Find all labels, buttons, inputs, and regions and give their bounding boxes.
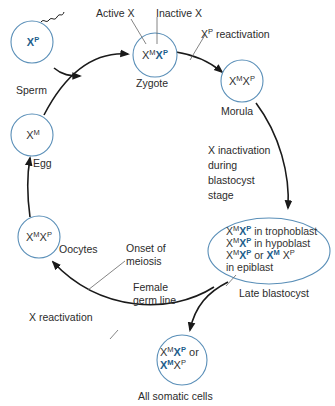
late-blastocyst-genotypes: XMXP in trophoblast XMXP in hypoblast XM… [226,225,317,273]
epiblast-label-line: in epiblast [226,261,317,273]
cell-circles [11,21,330,385]
arrow-egg-to-zygote [44,54,128,115]
active-x-annotation: Active X [96,7,135,19]
morula-genotype: XMXP [222,75,262,88]
egg-genotype: XM [18,129,48,142]
epiblast-line: XMXP or XM XP [226,249,317,261]
oocytes-genotype: XMXP [19,231,59,244]
sperm-label: Sperm [16,84,47,96]
sperm-genotype: XP [18,36,48,49]
x-inactivation-annotation: X inactivation during blastocyst stage [208,143,270,203]
arrow-zygote-to-morula [176,52,222,72]
somatic-label: All somatic cells [138,390,213,402]
oocytes-label: Oocytes [59,243,98,255]
egg-label: Egg [33,157,52,169]
zygote-label: Zygote [136,77,168,89]
onset-of-meiosis-annotation: Onset of meiosis [126,242,166,268]
x-reactivation-annotation: X reactivation [29,311,93,323]
trophoblast-line: XMXP in trophoblast [226,225,317,237]
female-germ-line-annotation: Female germ line [133,281,176,307]
somatic-genotype: XMXP or XMXP [160,346,206,372]
inactive-x-annotation: Inactive X [156,7,202,19]
hypoblast-line: XMXP in hypoblast [226,237,317,249]
zygote-genotype: XMXP [133,49,177,62]
arrow-oocytes-to-egg [28,158,30,217]
xp-reactivation-annotation: XP reactivation [201,28,270,40]
sperm-tail [41,12,64,22]
late-blastocyst-label: Late blastocyst [239,287,309,299]
morula-label: Morula [221,105,253,117]
